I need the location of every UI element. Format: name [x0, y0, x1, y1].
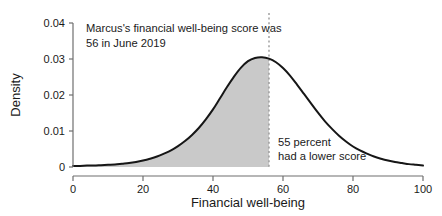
- density-chart-figure: 00.010.020.030.04 020406080100 Financial…: [0, 0, 442, 216]
- x-axis-tick-label: 0: [70, 183, 76, 195]
- score-annotation-line-1: Marcus's financial well-being score was: [86, 22, 282, 34]
- y-axis-tick-label: 0.03: [44, 53, 65, 65]
- x-axis-tick-label: 80: [347, 183, 359, 195]
- x-axis-title: Financial well-being: [191, 195, 305, 210]
- percentile-annotation-line-2: had a lower score: [278, 150, 366, 162]
- chart-canvas: 00.010.020.030.04 020406080100 Financial…: [0, 0, 442, 216]
- y-axis-title: Density: [8, 73, 23, 117]
- y-axis-tick-label: 0.04: [44, 17, 65, 29]
- y-axis-tick-label: 0.01: [44, 125, 65, 137]
- x-axis-tick-label: 40: [207, 183, 219, 195]
- x-axis-tick-label: 100: [414, 183, 432, 195]
- y-axis-tick-label: 0.02: [44, 89, 65, 101]
- percentile-annotation-line-1: 55 percent: [278, 136, 332, 148]
- score-annotation-line-2: 56 in June 2019: [86, 37, 166, 49]
- x-axis-tick-label: 20: [137, 183, 149, 195]
- y-axis-tick-label: 0: [59, 161, 65, 173]
- x-axis-tick-label: 60: [277, 183, 289, 195]
